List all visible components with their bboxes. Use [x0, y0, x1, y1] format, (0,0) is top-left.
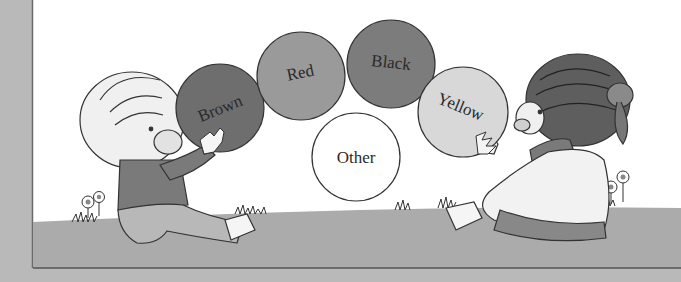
ball-yellow[interactable]: Yellow [418, 67, 508, 157]
scene-svg: Brown Red Black Yellow Other [0, 0, 681, 282]
illustration-scene: Brown Red Black Yellow Other [0, 0, 681, 282]
ball-other-label: Other [337, 148, 376, 167]
ball-other[interactable]: Other [312, 113, 400, 201]
ball-red[interactable]: Red [257, 32, 345, 120]
